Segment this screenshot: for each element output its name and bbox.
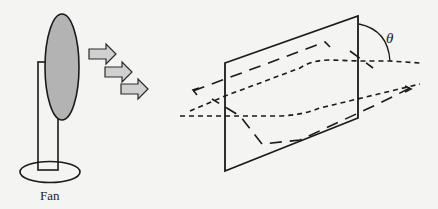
arrow-right-icon <box>105 62 132 82</box>
fan-blade <box>45 14 79 120</box>
angle-label: θ <box>386 30 393 47</box>
inclined-plate <box>225 16 358 171</box>
dashed-flow-lines <box>180 60 420 116</box>
fan-label: Fan <box>40 188 60 204</box>
arrow-right-icon <box>89 44 116 64</box>
diagram-svg <box>0 0 438 209</box>
diagram-canvas: θ Fan <box>0 0 438 209</box>
fan-icon <box>20 14 80 183</box>
fan-base <box>20 162 80 183</box>
arrow-right-icon <box>121 79 148 99</box>
airflow-arrows <box>89 44 148 99</box>
